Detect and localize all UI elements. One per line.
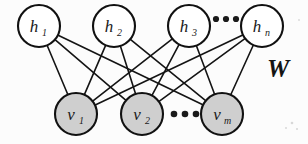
visible-node-label-v2: v: [133, 105, 141, 124]
edge-hn-v2: [158, 38, 247, 103]
visible-layer-ellipsis-icon-dot-3: [193, 111, 200, 118]
hidden-node-circle-h1: [18, 5, 60, 47]
hidden-node-label-h2: h: [105, 17, 114, 36]
hidden-node-label-h3: h: [180, 17, 189, 36]
hidden-node-circle-h2: [93, 5, 135, 47]
hidden-layer-ellipsis-icon-dot-3: [233, 16, 239, 22]
visible-node-circle-v1: [55, 93, 97, 135]
visible-node-circle-vm: [201, 93, 243, 135]
visible-node-v2: v2: [121, 93, 163, 135]
hidden-layer-ellipsis-icon-dot-1: [213, 16, 219, 22]
hidden-node-h2: h2: [93, 5, 135, 47]
edge-h2-v1: [84, 44, 107, 96]
visible-layer-ellipsis-icon-dot-2: [182, 111, 189, 118]
visible-node-vm: vm: [201, 93, 243, 135]
edge-hn-vm: [230, 44, 254, 97]
visible-node-label-vm: v: [213, 105, 221, 124]
hidden-node-subscript-h1: 1: [42, 27, 47, 38]
visible-node-v1: v1: [55, 93, 97, 135]
hidden-node-circle-hn: [241, 5, 283, 47]
hidden-node-circle-h3: [168, 5, 210, 47]
scan-speck-3: [296, 128, 298, 130]
hidden-node-h3: h3: [168, 5, 210, 47]
visible-node-subscript-v1: 1: [79, 115, 84, 126]
visible-layer-group: v1v2vm: [55, 93, 243, 135]
edge-h3-v1: [91, 38, 173, 102]
visible-node-subscript-vm: m: [224, 115, 231, 126]
hidden-node-hn: hn: [241, 5, 283, 47]
visible-node-subscript-v2: 2: [145, 115, 150, 126]
hidden-node-label-h1: h: [30, 17, 39, 36]
weight-label-group: W: [267, 55, 291, 82]
visible-node-circle-v2: [121, 93, 163, 135]
hidden-node-subscript-h3: 3: [191, 27, 197, 38]
scan-speck-4: [298, 19, 300, 21]
weight-matrix-label: W: [267, 55, 291, 82]
edge-h1-v1: [47, 44, 69, 96]
scan-speck-2: [285, 127, 287, 129]
visible-layer-ellipsis-icon: [171, 111, 200, 118]
hidden-node-h1: h1: [18, 5, 60, 47]
hidden-node-subscript-hn: n: [265, 27, 270, 38]
rbm-graph-svg: h1h2h3hn v1v2vm W: [0, 0, 308, 144]
hidden-layer-ellipsis-icon-dot-2: [223, 16, 229, 22]
hidden-node-label-hn: h: [253, 17, 262, 36]
visible-node-label-v1: v: [67, 105, 75, 124]
hidden-layer-ellipsis-icon: [213, 16, 239, 22]
hidden-node-subscript-h2: 2: [117, 27, 122, 38]
scan-speck-1: [291, 122, 294, 125]
rbm-diagram-canvas: h1h2h3hn v1v2vm W: [0, 0, 308, 144]
edge-h1-v2: [54, 39, 127, 102]
visible-layer-ellipsis-icon-dot-1: [171, 111, 178, 118]
